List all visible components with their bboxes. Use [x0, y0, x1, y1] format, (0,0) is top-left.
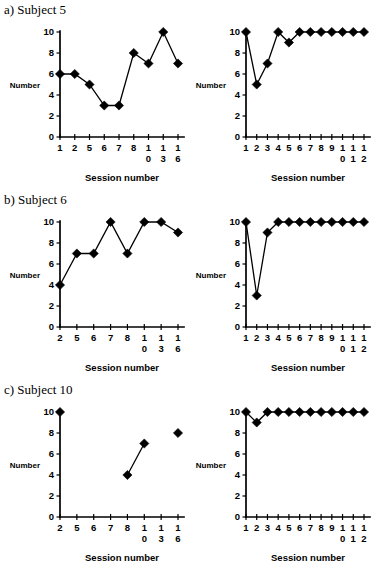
y-tick-label: 0	[235, 511, 240, 522]
x-tick-label: 3	[265, 332, 270, 343]
x-tick-label: 6	[297, 522, 302, 533]
y-axis-title: Number	[196, 271, 226, 280]
x-tick-label: 4	[276, 142, 282, 153]
x-tick-label: 1	[142, 332, 148, 343]
x-tick-label: 3	[158, 533, 163, 544]
y-tick-label: 8	[235, 47, 240, 58]
x-tick-label: 6	[175, 343, 180, 354]
y-tick-label: 2	[49, 490, 54, 501]
data-point-marker	[349, 27, 358, 36]
y-tick-label: 8	[235, 237, 240, 248]
data-point-marker	[173, 59, 182, 68]
data-point-marker	[295, 217, 304, 226]
x-tick-label: 2	[72, 142, 77, 153]
data-point-marker	[306, 27, 315, 36]
y-axis-title: Number	[196, 81, 226, 90]
x-tick-label: 1	[161, 142, 167, 153]
panel-chart-row: 0246810125678101316NumberSession number0…	[0, 20, 372, 190]
x-tick-label: 5	[286, 332, 292, 343]
data-point-marker	[140, 217, 149, 226]
x-tick-label: 0	[340, 343, 345, 354]
x-tick-label: 2	[254, 332, 259, 343]
x-tick-label: 1	[142, 522, 148, 533]
x-tick-label: 6	[175, 533, 180, 544]
x-tick-label: 1	[351, 533, 357, 544]
x-tick-label: 1	[351, 332, 357, 343]
y-tick-label: 6	[49, 68, 54, 79]
chart-container-b-right: 0246810123456789101112NumberSession numb…	[188, 210, 372, 380]
data-point-marker	[316, 27, 325, 36]
x-tick-label: 3	[158, 343, 163, 354]
data-point-marker	[85, 80, 94, 89]
x-tick-label: 5	[74, 522, 80, 533]
data-point-marker	[338, 217, 347, 226]
x-tick-label: 3	[265, 142, 270, 153]
y-tick-label: 8	[49, 427, 54, 438]
x-tick-label: 2	[254, 142, 259, 153]
chart-a-right: 0246810123456789101112NumberSession numb…	[188, 20, 372, 190]
x-tick-label: 8	[125, 332, 130, 343]
data-point-marker	[338, 27, 347, 36]
y-tick-label: 0	[49, 131, 54, 142]
y-tick-label: 4	[235, 469, 241, 480]
data-point-marker	[327, 217, 336, 226]
data-point-marker	[284, 217, 293, 226]
y-axis-title: Number	[196, 461, 226, 470]
x-tick-label: 2	[57, 522, 62, 533]
x-axis-title: Session number	[85, 552, 159, 563]
series-line	[246, 412, 364, 423]
x-tick-label: 1	[175, 142, 181, 153]
data-point-marker	[327, 407, 336, 416]
x-tick-label: 4	[276, 522, 282, 533]
chart-container-a-right: 0246810123456789101112NumberSession numb…	[188, 20, 372, 190]
y-axis-title: Number	[10, 461, 40, 470]
y-tick-label: 2	[235, 110, 240, 121]
y-tick-label: 10	[43, 26, 54, 37]
x-tick-label: 1	[351, 153, 357, 164]
data-point-marker	[159, 27, 168, 36]
panel-chart-row: 024681025678101316NumberSession number02…	[0, 400, 372, 569]
y-tick-label: 10	[229, 406, 240, 417]
data-point-marker	[263, 59, 272, 68]
x-tick-label: 7	[108, 522, 113, 533]
y-tick-label: 4	[49, 279, 55, 290]
chart-container-a-left: 0246810125678101316NumberSession number	[2, 20, 186, 190]
x-axis-title: Session number	[271, 552, 345, 563]
data-point-marker	[123, 249, 132, 258]
panel-chart-row: 024681025678101316NumberSession number02…	[0, 210, 372, 380]
x-axis-title: Session number	[85, 172, 159, 183]
y-tick-label: 10	[229, 26, 240, 37]
data-point-marker	[252, 80, 261, 89]
y-tick-label: 10	[43, 216, 54, 227]
x-tick-label: 7	[116, 142, 121, 153]
x-tick-label: 1	[351, 142, 357, 153]
y-tick-label: 8	[49, 47, 54, 58]
x-tick-label: 1	[175, 522, 181, 533]
data-point-marker	[173, 428, 182, 437]
x-tick-label: 7	[308, 142, 313, 153]
panel-panel-c: c) Subject 10024681025678101316NumberSes…	[0, 380, 372, 569]
data-point-marker	[241, 217, 250, 226]
x-tick-label: 8	[131, 142, 136, 153]
data-point-marker	[306, 407, 315, 416]
data-point-marker	[316, 407, 325, 416]
x-tick-label: 1	[361, 142, 367, 153]
x-tick-label: 5	[87, 142, 93, 153]
chart-c-right: 0246810123456789101112NumberSession numb…	[188, 400, 372, 569]
data-point-marker	[338, 407, 347, 416]
chart-b-right: 0246810123456789101112NumberSession numb…	[188, 210, 372, 380]
x-tick-label: 1	[361, 332, 367, 343]
data-point-marker	[157, 217, 166, 226]
x-tick-label: 2	[361, 153, 366, 164]
y-tick-label: 8	[49, 237, 54, 248]
figure-subject-session-charts: a) Subject 50246810125678101316NumberSes…	[0, 0, 372, 569]
data-point-marker	[55, 69, 64, 78]
x-tick-label: 1	[158, 522, 164, 533]
x-tick-label: 0	[142, 533, 147, 544]
data-point-marker	[55, 280, 64, 289]
y-tick-label: 6	[49, 448, 54, 459]
panel-heading: b) Subject 6	[0, 190, 372, 210]
panel-heading: c) Subject 10	[0, 380, 372, 400]
y-tick-label: 6	[235, 68, 240, 79]
y-tick-label: 2	[49, 300, 54, 311]
